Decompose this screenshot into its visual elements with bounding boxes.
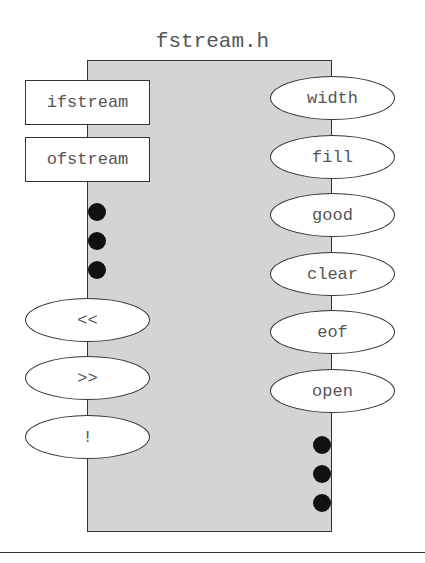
bottom-rule-divider (0, 552, 425, 553)
ellipsis-dot-right-3 (313, 494, 331, 512)
method-clear: clear (270, 252, 395, 296)
method-width: width (270, 76, 395, 120)
operator-not: ! (25, 415, 150, 459)
class-box-ofstream: ofstream (25, 137, 150, 182)
method-fill: fill (270, 135, 395, 179)
method-open: open (270, 369, 395, 413)
ellipsis-dot-right-1 (313, 436, 331, 454)
ellipsis-dot-right-2 (313, 465, 331, 483)
ellipsis-dot-left-2 (88, 232, 106, 250)
method-good: good (270, 193, 395, 237)
fstream-header-box (87, 60, 332, 532)
header-file-title: fstream.h (0, 30, 425, 53)
ellipsis-dot-left-1 (88, 203, 106, 221)
operator-extraction: >> (25, 356, 150, 400)
ellipsis-dot-left-3 (88, 261, 106, 279)
method-eof: eof (270, 310, 395, 354)
operator-insertion: << (25, 298, 150, 342)
class-box-ifstream: ifstream (25, 80, 150, 125)
